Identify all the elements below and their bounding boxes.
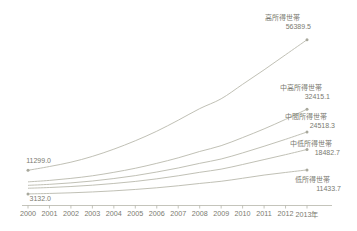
annotation-start-high-income: 11299.0 (11, 157, 51, 166)
series-start-marker-0 (27, 169, 30, 172)
x-axis-tick-label-1: 2001 (41, 209, 57, 218)
x-axis-tick-label-8: 2008 (192, 209, 208, 218)
series-value-lower-middle-income: 18482.7 (282, 149, 340, 158)
series-name-upper-middle-income: 中高所得世帯 (272, 84, 330, 93)
annotation-start-low-income-value: 3132.0 (15, 195, 51, 204)
series-label-upper-middle-income: 中高所得世帯 32415.1 (272, 84, 330, 101)
series-end-marker-0 (306, 38, 309, 41)
series-label-lower-middle-income: 中低所得世帯 18482.7 (282, 140, 340, 157)
annotation-start-high-income-value: 11299.0 (11, 157, 51, 166)
series-value-upper-middle-income: 32415.1 (272, 93, 330, 102)
series-name-low-income: 低所得世帯 (283, 176, 341, 185)
series-name-lower-middle-income: 中低所得世帯 (282, 140, 340, 149)
x-axis-tick-label-9: 2009 (213, 209, 229, 218)
line-chart: 高所得世帯 56389.5 中高所得世帯 32415.1 中間所得世帯 2451… (0, 0, 357, 231)
x-axis-tick-label-2: 2002 (63, 209, 79, 218)
series-value-low-income: 11433.7 (283, 185, 341, 194)
series-name-middle-income: 中間所得世帯 (277, 113, 335, 122)
series-lines-group (28, 40, 307, 194)
x-axis-tick-label-7: 2007 (170, 209, 186, 218)
series-label-high-income: 高所得世帯 56389.5 (253, 14, 311, 31)
x-axis-tick-label-12: 2012 (278, 209, 294, 218)
series-label-low-income: 低所得世帯 11433.7 (283, 176, 341, 193)
series-end-markers-group (27, 38, 309, 195)
series-end-marker-4 (306, 168, 309, 171)
series-label-middle-income: 中間所得世帯 24518.3 (277, 113, 335, 130)
series-name-high-income: 高所得世帯 (253, 14, 311, 23)
x-axis-tick-label-10: 2010 (235, 209, 251, 218)
series-end-marker-2 (306, 131, 309, 134)
series-line-3 (28, 150, 307, 189)
annotation-start-low-income: 3132.0 (15, 195, 51, 204)
series-line-4 (28, 170, 307, 194)
series-value-high-income: 56389.5 (253, 23, 311, 32)
series-line-0 (28, 40, 307, 171)
x-axis-tick-label-5: 2005 (127, 209, 143, 218)
series-value-middle-income: 24518.3 (277, 122, 335, 131)
series-end-marker-1 (306, 108, 309, 111)
x-axis-tick-label-11: 2011 (256, 209, 271, 218)
x-axis-tick-labels: 2000200120022003200420052006200720082009… (0, 209, 357, 223)
x-axis-tick-label-3: 2003 (84, 209, 100, 218)
x-axis-tick-label-13: 2013年 (296, 209, 319, 219)
x-axis-tick-label-0: 2000 (20, 209, 36, 218)
x-axis-tick-label-6: 2006 (149, 209, 165, 218)
x-axis-tick-label-4: 2004 (106, 209, 122, 218)
